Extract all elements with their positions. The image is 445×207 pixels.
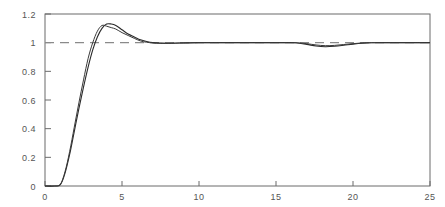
y-tick-label: 0.8 [22,67,36,77]
y-tick-label: 0 [30,182,36,192]
step-response-chart: 00.20.40.60.811.2 0510152025 [0,0,445,207]
chart-background [0,0,445,207]
y-tick-label: 0.6 [22,96,36,106]
x-tick-label: 10 [193,192,204,202]
y-tick-label: 1 [30,38,36,48]
chart-screenshot: 00.20.40.60.811.2 0510152025 [0,0,445,207]
x-tick-label: 25 [424,192,435,202]
x-tick-label: 0 [42,192,48,202]
x-tick-label: 5 [119,192,125,202]
y-tick-label: 1.2 [22,10,36,20]
y-tick-label: 0.4 [22,124,36,134]
x-tick-label: 15 [270,192,281,202]
x-tick-label: 20 [347,192,358,202]
y-tick-label: 0.2 [22,153,36,163]
